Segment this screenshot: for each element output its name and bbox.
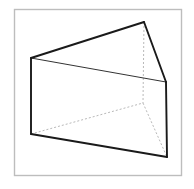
figure-canvas <box>0 0 194 189</box>
visible-edge-right-vertical <box>166 82 167 157</box>
prism-diagram <box>0 0 194 189</box>
